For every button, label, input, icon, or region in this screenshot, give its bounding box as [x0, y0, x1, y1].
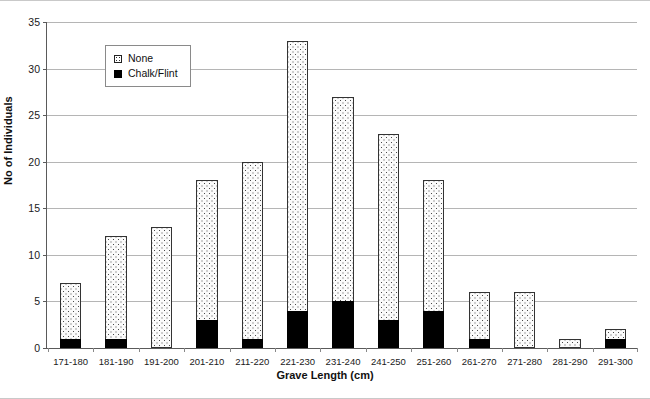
bar-segment-none	[242, 162, 263, 339]
bar-segment-none	[196, 180, 217, 320]
bar-segment-chalk-flint	[60, 339, 81, 348]
x-tick-mark-boundary	[637, 348, 638, 352]
x-tick-label: 251-260	[411, 356, 456, 367]
bar-segment-none	[423, 180, 444, 310]
x-tick-mark-boundary	[320, 348, 321, 352]
bar-stack[interactable]	[196, 180, 217, 348]
bar-segment-chalk-flint	[423, 311, 444, 348]
x-tick-slot: 221-230	[275, 348, 320, 367]
bar-stack[interactable]	[60, 283, 81, 348]
legend-swatch-none-icon	[114, 55, 122, 63]
x-tick-label: 211-220	[230, 356, 275, 367]
x-tick-label: 201-210	[184, 356, 229, 367]
y-tick-label-20: 20	[28, 156, 40, 168]
x-tick-mark-boundary	[593, 348, 594, 352]
bar-slot	[457, 22, 502, 348]
bar-segment-none	[605, 329, 626, 338]
figure-top-rule	[0, 0, 650, 1]
x-tick-label: 271-280	[502, 356, 547, 367]
bar-slot	[502, 22, 547, 348]
x-tick-mark-boundary	[184, 348, 185, 352]
y-tick-mark-15	[43, 208, 47, 209]
bar-slot	[230, 22, 275, 348]
x-tick-label: 291-300	[593, 356, 638, 367]
bar-segment-chalk-flint	[605, 339, 626, 348]
x-tick-mark-boundary	[230, 348, 231, 352]
x-tick-slot: 271-280	[502, 348, 547, 367]
bar-segment-chalk-flint	[242, 339, 263, 348]
bar-stack[interactable]	[423, 180, 444, 348]
x-tick-slot: 291-300	[593, 348, 638, 367]
y-tick-label-5: 5	[34, 295, 40, 307]
bar-stack[interactable]	[287, 41, 308, 348]
bar-slot	[411, 22, 456, 348]
x-tick-label: 231-240	[320, 356, 365, 367]
bar-segment-none	[469, 292, 490, 339]
y-tick-label-10: 10	[28, 249, 40, 261]
y-tick-mark-35	[43, 22, 47, 23]
y-tick-mark-0	[43, 348, 47, 349]
bar-segment-chalk-flint	[378, 320, 399, 348]
x-tick-mark-boundary	[139, 348, 140, 352]
x-tick-label: 191-200	[139, 356, 184, 367]
y-tick-mark-30	[43, 69, 47, 70]
y-tick-label-15: 15	[28, 202, 40, 214]
y-axis-title: No of Individuals	[2, 96, 14, 185]
x-tick-label: 181-190	[93, 356, 138, 367]
bar-segment-none	[287, 41, 308, 311]
y-tick-label-0: 0	[34, 342, 40, 354]
legend-swatch-chalk-flint-icon	[114, 70, 122, 78]
x-tick-slot: 231-240	[320, 348, 365, 367]
y-tick-mark-10	[43, 255, 47, 256]
x-tick-label: 281-290	[547, 356, 592, 367]
bar-slot	[48, 22, 93, 348]
legend-item-none: None	[114, 51, 178, 66]
bar-segment-none	[559, 339, 580, 348]
x-tick-slot: 171-180	[48, 348, 93, 367]
x-tick-mark-boundary	[457, 348, 458, 352]
x-axis-ticks: 171-180181-190191-200201-210211-220221-2…	[48, 348, 638, 367]
bar-segment-none	[378, 134, 399, 320]
x-tick-mark-boundary	[275, 348, 276, 352]
bar-segment-chalk-flint	[105, 339, 126, 348]
bar-stack[interactable]	[514, 292, 535, 348]
y-tick-mark-5	[43, 301, 47, 302]
y-tick-label-25: 25	[28, 109, 40, 121]
bar-slot	[184, 22, 229, 348]
chart-legend: None Chalk/Flint	[105, 45, 191, 87]
bar-slot	[320, 22, 365, 348]
x-tick-mark-boundary	[48, 348, 49, 352]
bar-stack[interactable]	[332, 97, 353, 348]
x-tick-mark-boundary	[547, 348, 548, 352]
bar-stack[interactable]	[105, 236, 126, 348]
bar-slot	[547, 22, 592, 348]
bar-segment-chalk-flint	[196, 320, 217, 348]
bar-segment-none	[60, 283, 81, 339]
x-tick-slot: 281-290	[547, 348, 592, 367]
x-tick-label: 261-270	[457, 356, 502, 367]
x-tick-slot: 241-250	[366, 348, 411, 367]
x-tick-label: 171-180	[48, 356, 93, 367]
y-tick-mark-25	[43, 115, 47, 116]
y-tick-mark-20	[43, 162, 47, 163]
bar-segment-none	[332, 97, 353, 302]
bar-stack[interactable]	[151, 227, 172, 348]
bar-stack[interactable]	[469, 292, 490, 348]
x-tick-slot: 261-270	[457, 348, 502, 367]
x-tick-slot: 251-260	[411, 348, 456, 367]
bar-stack[interactable]	[242, 162, 263, 348]
x-axis-title: Grave Length (cm)	[0, 369, 650, 381]
x-tick-mark-boundary	[93, 348, 94, 352]
bar-slot	[366, 22, 411, 348]
chart-figure: No of Individuals 05101520253035 171-180…	[0, 0, 650, 399]
bar-segment-none	[151, 227, 172, 348]
x-tick-mark-boundary	[411, 348, 412, 352]
bar-stack[interactable]	[378, 134, 399, 348]
bar-stack[interactable]	[605, 329, 626, 348]
legend-label-none: None	[128, 51, 153, 66]
bar-segment-chalk-flint	[332, 301, 353, 348]
bar-stack[interactable]	[559, 339, 580, 348]
bar-segment-none	[105, 236, 126, 338]
x-tick-slot: 201-210	[184, 348, 229, 367]
x-tick-slot: 211-220	[230, 348, 275, 367]
